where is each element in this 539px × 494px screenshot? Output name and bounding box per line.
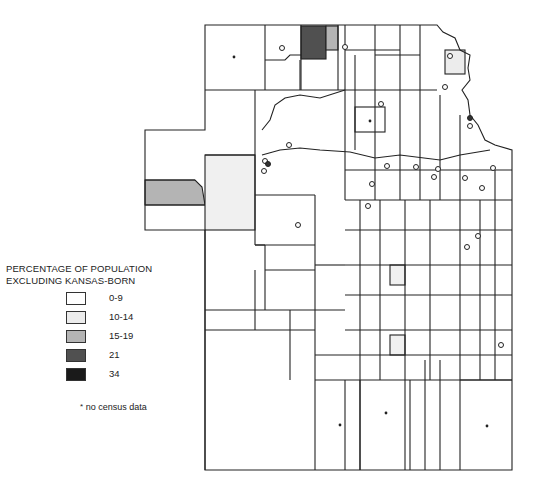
county-shaded-15-19: [326, 26, 338, 50]
legend-item: 34: [6, 368, 206, 387]
no-data-marker: [233, 56, 236, 59]
town-marker: [491, 166, 496, 171]
county-shaded-10-14-c: [390, 265, 405, 285]
legend-title-line2: EXCLUDING KANSAS-BORN: [6, 275, 206, 287]
town-marker: [480, 186, 485, 191]
no-data-marker: [339, 424, 342, 427]
town-marker: [385, 164, 390, 169]
legend-item: 0-9: [6, 292, 206, 311]
legend-label: 15-19: [109, 330, 133, 341]
town-marker: [379, 102, 384, 107]
kansas-county-map: [0, 0, 539, 494]
no-data-marker: [369, 120, 372, 123]
county-shaded-10-14-w: [205, 155, 255, 230]
legend-label: 0-9: [109, 292, 123, 303]
legend-swatch: [66, 311, 86, 324]
no-data-text: no census data: [86, 402, 147, 412]
legend-swatch: [66, 368, 86, 381]
town-marker: [370, 182, 375, 187]
county-shaded-10-14-s: [390, 335, 405, 355]
no-data-marker: [385, 412, 388, 415]
town-marker: [287, 143, 292, 148]
town-marker-filled: [468, 116, 473, 121]
town-marker: [343, 45, 348, 50]
legend-label: 34: [109, 368, 120, 379]
town-marker: [468, 124, 473, 129]
legend-swatch: [66, 349, 86, 362]
legend-item: 10-14: [6, 311, 206, 330]
town-marker: [499, 343, 504, 348]
legend-swatch: [66, 330, 86, 343]
town-marker: [463, 176, 468, 181]
county-shaded-west-strip: [145, 180, 205, 205]
town-marker: [296, 223, 301, 228]
legend-label: 21: [109, 349, 120, 360]
town-marker: [476, 234, 481, 239]
town-marker: [262, 169, 267, 174]
town-marker: [414, 165, 419, 170]
town-marker: [366, 204, 371, 209]
town-marker: [280, 46, 285, 51]
town-marker-filled: [266, 162, 271, 167]
no-data-note: * no census data: [80, 402, 147, 412]
legend-swatch: [66, 292, 86, 305]
county-shaded-10-14-ne: [445, 50, 465, 74]
no-data-marker-symbol: *: [80, 402, 83, 411]
legend-item: 15-19: [6, 330, 206, 349]
town-marker: [465, 245, 470, 250]
town-marker: [448, 54, 453, 59]
legend: PERCENTAGE OF POPULATION EXCLUDING KANSA…: [6, 263, 206, 387]
legend-title-line1: PERCENTAGE OF POPULATION: [6, 263, 206, 275]
no-data-marker: [486, 425, 489, 428]
legend-item: 21: [6, 349, 206, 368]
state-outline: [145, 25, 512, 470]
town-marker: [436, 167, 441, 172]
legend-label: 10-14: [109, 311, 133, 322]
county-shaded-21: [301, 26, 326, 59]
town-marker: [443, 85, 448, 90]
town-marker: [432, 175, 437, 180]
